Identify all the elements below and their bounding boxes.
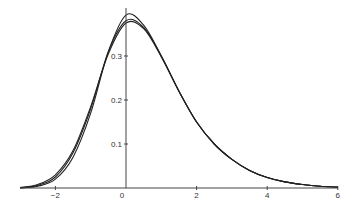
y-tick-label: 0.2 <box>111 96 123 105</box>
y-tick-label: 0.1 <box>111 140 123 149</box>
x-tick-label: 0 <box>120 191 125 200</box>
density-curve-curve-2 <box>20 19 338 188</box>
x-tick-label: −2 <box>51 191 61 200</box>
y-axis-ticks: 0.10.20.3 <box>111 52 128 149</box>
x-tick-label: 6 <box>336 191 341 200</box>
x-tick-label: 4 <box>265 191 270 200</box>
density-curves <box>20 14 338 188</box>
x-tick-label: 2 <box>194 191 199 200</box>
y-tick-label: 0.3 <box>111 52 123 61</box>
density-chart: −20246 0.10.20.3 <box>0 0 357 208</box>
